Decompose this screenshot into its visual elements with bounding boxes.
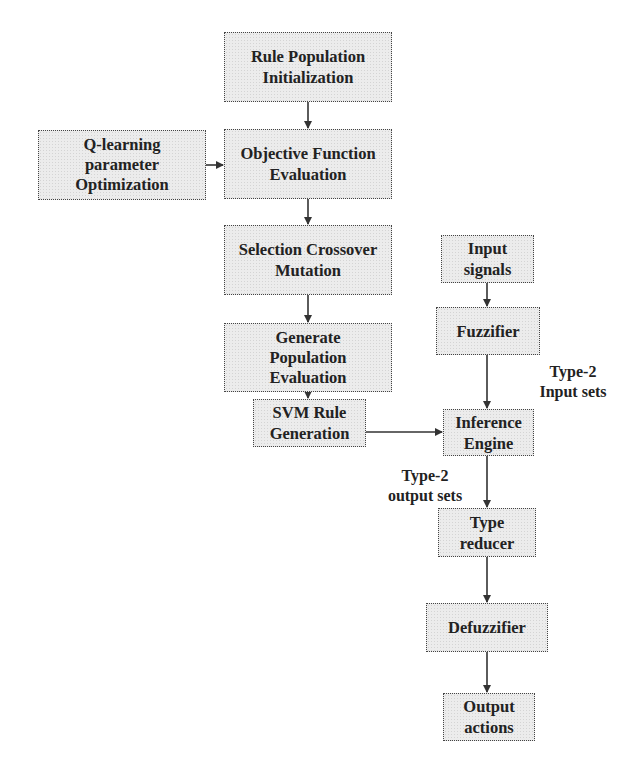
node-fuzzifier: Fuzzifier xyxy=(436,307,540,355)
edge-label-type2-input-sets: Type-2 Input sets xyxy=(518,362,624,402)
node-label: Population xyxy=(269,348,346,368)
node-objective-function-evaluation: Objective Function Evaluation xyxy=(224,129,392,199)
node-rule-population-initialization: Rule Population Initialization xyxy=(224,32,392,102)
node-label: Fuzzifier xyxy=(456,321,519,342)
node-label: Defuzzifier xyxy=(448,617,526,638)
node-label: Mutation xyxy=(275,260,341,281)
node-label: Q-learning xyxy=(84,135,161,155)
edge-label-line: Type-2 xyxy=(518,362,624,382)
node-q-learning-parameter-optimization: Q-learning parameter Optimization xyxy=(38,130,206,200)
node-label: Input xyxy=(468,238,507,259)
node-label: Initialization xyxy=(263,67,354,88)
node-label: Inference xyxy=(455,412,522,433)
node-generate-population-evaluation: Generate Population Evaluation xyxy=(224,323,392,392)
node-inference-engine: Inference Engine xyxy=(443,409,534,456)
edge-label-line: output sets xyxy=(370,486,480,506)
node-label: Selection Crossover xyxy=(239,239,378,260)
node-label: reducer xyxy=(460,533,515,554)
node-label: Optimization xyxy=(75,175,169,195)
node-svm-rule-generation: SVM Rule Generation xyxy=(253,399,366,447)
node-label: Evaluation xyxy=(269,368,346,388)
node-defuzzifier: Defuzzifier xyxy=(426,603,548,652)
node-type-reducer: Type reducer xyxy=(438,508,536,557)
node-label: Objective Function xyxy=(240,143,375,164)
node-label: Type xyxy=(470,512,505,533)
edge-label-line: Type-2 xyxy=(370,466,480,486)
node-label: parameter xyxy=(85,155,159,175)
node-label: actions xyxy=(464,717,514,738)
node-label: SVM Rule xyxy=(273,402,347,423)
node-output-actions: Output actions xyxy=(443,693,535,741)
node-label: Generate xyxy=(275,328,340,348)
node-label: Evaluation xyxy=(269,164,346,185)
edge-label-line: Input sets xyxy=(518,382,624,402)
node-label: Engine xyxy=(464,433,514,454)
node-selection-crossover-mutation: Selection Crossover Mutation xyxy=(224,225,392,295)
edge-label-type2-output-sets: Type-2 output sets xyxy=(370,466,480,506)
node-input-signals: Input signals xyxy=(441,235,534,283)
node-label: Generation xyxy=(270,423,350,444)
node-label: Output xyxy=(463,696,514,717)
node-label: signals xyxy=(464,259,512,280)
node-label: Rule Population xyxy=(251,46,365,67)
